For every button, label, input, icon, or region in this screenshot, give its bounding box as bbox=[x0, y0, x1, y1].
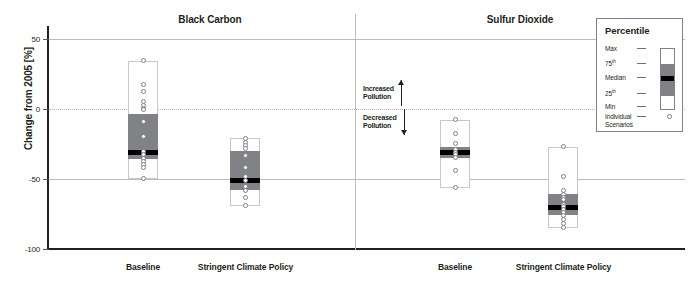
scenario-point bbox=[243, 165, 248, 170]
legend-label-p75: 75th bbox=[605, 59, 635, 67]
panel-divider bbox=[355, 14, 356, 250]
legend-dash-icon bbox=[637, 77, 646, 78]
decreased-pollution-label: Decreased Pollution bbox=[363, 114, 397, 131]
x-label-so2-baseline: Baseline bbox=[425, 262, 485, 272]
x-axis-line bbox=[47, 248, 685, 250]
y-tick-label-minus100: -100 bbox=[14, 245, 40, 254]
legend-label-p25: 25th bbox=[605, 89, 635, 97]
x-label-bc-baseline: Baseline bbox=[113, 262, 173, 272]
legend-label-individual-scenarios: Individual Scenarios bbox=[605, 113, 635, 129]
y-tick-label-0: 0 bbox=[14, 105, 40, 114]
legend-row-p25: 25th bbox=[605, 89, 646, 97]
scenario-point bbox=[453, 117, 458, 122]
y-tick-minus50 bbox=[43, 179, 49, 180]
scenario-point bbox=[141, 89, 146, 94]
legend-dash-icon bbox=[637, 116, 646, 117]
scenario-point bbox=[453, 141, 458, 146]
scenario-point bbox=[141, 165, 146, 170]
scenario-point bbox=[141, 82, 146, 87]
scenario-point bbox=[561, 144, 566, 149]
legend-dash-icon bbox=[637, 106, 646, 107]
panel-title-black-carbon: Black Carbon bbox=[130, 14, 290, 25]
legend-label-median: Median bbox=[605, 74, 635, 81]
legend-row-max: Max bbox=[605, 45, 646, 52]
scenario-point bbox=[561, 174, 566, 179]
scenario-point bbox=[453, 131, 458, 136]
legend-row-min: Min bbox=[605, 103, 646, 110]
legend-label-min: Min bbox=[605, 103, 635, 110]
scenario-point bbox=[243, 146, 248, 151]
y-tick-label-minus50: -50 bbox=[14, 175, 40, 184]
legend-scenario-circle-icon bbox=[667, 114, 672, 119]
chart-canvas: Change from 2005 [%] 50 0 -50 -100 Black… bbox=[0, 0, 689, 282]
scenario-point bbox=[243, 153, 248, 158]
scenario-point bbox=[453, 168, 458, 173]
gridline-50 bbox=[49, 39, 685, 40]
scenario-point bbox=[141, 134, 146, 139]
y-axis-line bbox=[47, 26, 49, 250]
pollution-direction-annotation: Increased Pollution Decreased Pollution bbox=[363, 80, 433, 135]
panel-title-sulfur-dioxide: Sulfur Dioxide bbox=[440, 14, 600, 25]
legend: Percentile Max 75th Median 25th Min bbox=[596, 18, 683, 132]
y-tick-50 bbox=[43, 39, 49, 40]
scenario-point bbox=[561, 225, 566, 230]
scenario-point bbox=[141, 176, 146, 181]
scenario-point bbox=[141, 119, 146, 124]
scenario-point bbox=[243, 195, 248, 200]
scenario-point bbox=[141, 58, 146, 63]
y-tick-label-50: 50 bbox=[14, 35, 40, 44]
arrow-down-icon bbox=[400, 109, 409, 135]
x-label-bc-policy: Stringent Climate Policy bbox=[188, 262, 303, 272]
legend-boxplot-swatch bbox=[660, 48, 675, 110]
arrow-up-icon bbox=[397, 80, 406, 106]
y-axis-label: Change from 2005 [%] bbox=[23, 24, 34, 174]
scenario-point bbox=[243, 203, 248, 208]
scenario-point bbox=[453, 185, 458, 190]
scenario-point bbox=[141, 107, 146, 112]
scenario-point bbox=[453, 155, 458, 160]
legend-row-median: Median bbox=[605, 74, 646, 81]
legend-dash-icon bbox=[637, 63, 646, 64]
y-tick-0 bbox=[43, 109, 49, 110]
scenario-point bbox=[243, 178, 248, 183]
y-tick-minus100 bbox=[43, 249, 49, 250]
legend-dash-icon bbox=[637, 48, 646, 49]
scenario-point bbox=[243, 188, 248, 193]
legend-dash-icon bbox=[637, 93, 646, 94]
x-label-so2-policy: Stringent Climate Policy bbox=[506, 262, 621, 272]
legend-row-individual-scenarios: Individual Scenarios bbox=[605, 113, 646, 129]
increased-pollution-label: Increased Pollution bbox=[363, 85, 394, 102]
legend-title: Percentile bbox=[605, 25, 649, 36]
legend-row-p75: 75th bbox=[605, 59, 646, 67]
legend-label-max: Max bbox=[605, 45, 635, 52]
